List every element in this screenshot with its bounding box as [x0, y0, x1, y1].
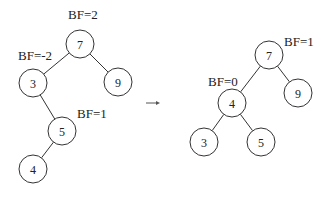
before-edge-b5-b4	[41, 142, 53, 158]
avl-tree-diagram: 7395474935 BF=2BF=-2BF=1BF=1BF=0	[0, 0, 330, 197]
before-node-value: 4	[30, 163, 36, 177]
before-node-value: 5	[59, 125, 65, 139]
after-balance-factor-label: BF=0	[208, 74, 238, 89]
after-edge-a7-a4	[241, 66, 261, 92]
after-edge-a4-a5	[240, 114, 252, 131]
before-node-value: 7	[77, 38, 83, 52]
after-node-value: 4	[229, 97, 235, 111]
after-balance-factor-label: BF=1	[284, 34, 314, 49]
after-node-value: 7	[266, 49, 272, 63]
before-balance-factor-label: BF=-2	[18, 48, 52, 63]
after-node-value: 5	[258, 136, 264, 150]
before-balance-factor-label: BF=1	[77, 106, 107, 121]
after-node-value: 3	[201, 136, 207, 150]
before-edge-b3-b5	[40, 95, 55, 119]
after-edge-a4-a3	[212, 114, 224, 130]
after-node-value: 9	[295, 87, 301, 101]
after-edge-a7-a9	[277, 66, 289, 82]
arrow-head-icon	[156, 101, 160, 105]
before-edge-b7-b9	[90, 54, 108, 72]
before-balance-factor-label: BF=2	[68, 7, 98, 22]
before-node-value: 3	[30, 77, 36, 91]
before-node-value: 9	[115, 76, 121, 90]
